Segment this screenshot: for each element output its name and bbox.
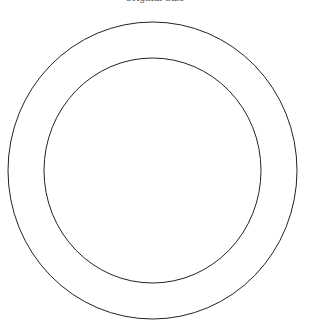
inner-circle [44,58,261,283]
outer-circle [8,22,297,319]
concentric-circles-diagram [0,0,309,327]
